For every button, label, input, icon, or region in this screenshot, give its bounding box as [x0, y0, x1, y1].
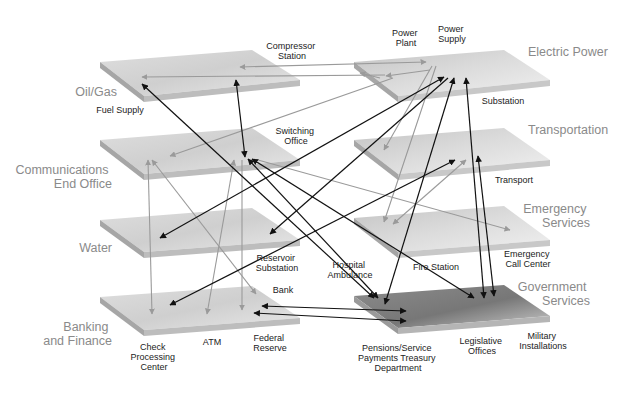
sector-label-communications: Communications End Office: [15, 163, 112, 191]
node-label-substation: Substation: [482, 96, 525, 106]
node-label-bank: Bank: [273, 285, 294, 295]
sector-label-emergency-services: Emergency Services: [523, 202, 590, 230]
plane-communications: [100, 128, 300, 180]
sector-label-banking: Banking and Finance: [43, 320, 112, 348]
node-label-fuel-supply: Fuel Supply: [96, 105, 144, 115]
node-label-switching-office: Switching Office: [275, 126, 316, 146]
sector-label-electric-power: Electric Power: [528, 45, 608, 59]
sector-label-transportation: Transportation: [528, 123, 608, 137]
black-dependency-arrows: [142, 77, 494, 321]
node-label-emergency-call-center: Emergency Call Center: [504, 249, 552, 269]
plane-electric-power: [354, 50, 550, 102]
node-label-hospital-ambulance: Hospital Ambulance: [327, 260, 372, 280]
sector-label-oil-gas: Oil/Gas: [75, 85, 117, 99]
node-label-pensions-treasury: Pensions/Service Payments Treasury Depar…: [358, 343, 438, 373]
node-label-power-plant: Power Plant: [392, 28, 420, 48]
infrastructure-interdependency-diagram: Oil/Gas Communications End Office Water …: [0, 0, 619, 393]
node-label-fire-station: Fire Station: [413, 262, 459, 272]
node-label-military-installations: Military Installations: [519, 331, 567, 351]
node-label-atm: ATM: [203, 337, 221, 347]
gray-dependency-arrows: [142, 62, 510, 314]
node-label-legislative-offices: Legislative Offices: [459, 336, 504, 356]
node-label-compressor-station: Compressor Station: [266, 41, 318, 61]
node-label-check-processing-center: Check Processing Center: [130, 342, 177, 372]
plane-banking: [100, 286, 300, 336]
node-label-federal-reserve: Federal Reserve: [253, 333, 287, 353]
node-label-power-supply: Power Supply: [438, 24, 466, 44]
node-label-transport: Transport: [495, 175, 534, 185]
sector-label-water: Water: [79, 241, 112, 255]
node-label-reservoir-substation: Reservoir Substation: [256, 253, 299, 273]
